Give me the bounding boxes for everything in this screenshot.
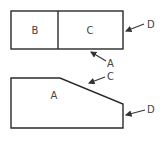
arrow-icon [126, 110, 145, 115]
arrow-icon [89, 77, 105, 83]
region-label-c: C [87, 25, 94, 36]
top-figure: B C D A [11, 11, 155, 69]
arrow-icon [91, 52, 106, 61]
region-label-b: B [32, 25, 39, 36]
bottom-figure: A C D [11, 71, 155, 128]
callout-label-a-top: A [107, 58, 114, 69]
diagram-canvas: B C D A A C D [0, 0, 166, 148]
callout-label-d-top: D [147, 19, 155, 30]
callout-label-c-bottom: C [107, 71, 114, 82]
region-label-a: A [51, 90, 58, 101]
arrow-icon [126, 24, 144, 31]
top-rectangle [11, 11, 123, 49]
bottom-polygon [11, 78, 123, 128]
callout-label-d-bottom: D [147, 104, 155, 115]
